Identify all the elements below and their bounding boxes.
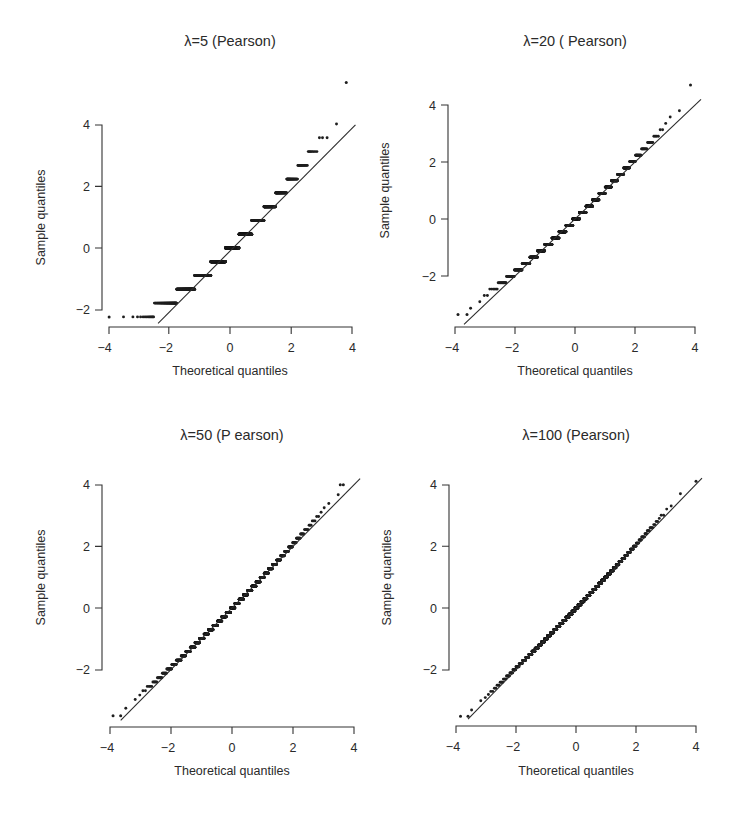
y-axis-label: Sample quantiles	[380, 530, 394, 626]
data-point	[209, 274, 212, 277]
x-tick-label: −2	[159, 341, 173, 355]
panel-title: λ=50 (P earson)	[180, 427, 283, 443]
data-point	[131, 315, 134, 318]
x-tick-label: −2	[506, 740, 520, 754]
data-point	[664, 122, 667, 125]
y-tick-label: 2	[429, 156, 436, 170]
x-axis-label: Theoretical quantiles	[172, 364, 287, 378]
data-point	[224, 260, 227, 263]
data-point	[138, 694, 141, 697]
x-tick-labels: −4 −2 0 2 4	[445, 341, 699, 355]
y-tick-label: −2	[76, 303, 90, 317]
data-point	[144, 689, 147, 692]
y-tick-labels: −2 0 2 4	[76, 478, 90, 677]
data-point	[124, 707, 127, 710]
x-axis	[110, 727, 354, 734]
data-point	[317, 515, 320, 518]
data-point	[597, 198, 600, 201]
outlier-point	[457, 313, 460, 316]
data-point	[543, 249, 546, 252]
x-tick-label: 2	[290, 741, 297, 755]
data-point	[470, 709, 473, 712]
data-point	[670, 505, 673, 508]
data-point	[484, 696, 487, 699]
y-tick-label: −2	[422, 270, 436, 284]
panel-lambda-100: λ=100 (Pearson) −2 0 2 4 −4 −2 0 2 4 The…	[380, 427, 702, 778]
y-tick-label: −2	[423, 663, 437, 677]
x-tick-labels: −4 −2 0 2 4	[446, 740, 700, 754]
x-tick-label: 2	[632, 341, 639, 355]
x-tick-label: −4	[100, 741, 114, 755]
outlier-point	[112, 714, 115, 717]
data-point	[496, 288, 499, 291]
reference-line	[158, 125, 355, 324]
x-tick-label: 0	[572, 341, 579, 355]
y-tick-label: 4	[430, 478, 437, 492]
data-point	[483, 294, 486, 297]
data-point	[661, 128, 664, 131]
points-layer	[108, 81, 348, 318]
y-tick-label: 0	[429, 213, 436, 227]
outlier-point	[466, 313, 469, 316]
x-tick-label: 0	[227, 341, 234, 355]
panel-title: λ=5 (Pearson)	[184, 33, 275, 49]
data-point	[665, 508, 668, 511]
x-tick-labels: −4 −2 0 2 4	[97, 341, 355, 355]
x-tick-label: −4	[445, 341, 459, 355]
data-point	[321, 136, 324, 139]
data-point	[487, 693, 490, 696]
y-axis	[442, 485, 449, 670]
data-point	[152, 315, 155, 318]
panel-title: λ=100 (Pearson)	[522, 427, 630, 443]
y-axis-label: Sample quantiles	[34, 170, 48, 266]
outlier-point	[108, 315, 111, 318]
data-point	[657, 135, 660, 138]
data-point	[134, 698, 137, 701]
y-tick-label: 4	[83, 118, 90, 132]
data-point	[571, 224, 574, 227]
data-point	[323, 506, 326, 509]
data-point	[335, 123, 338, 126]
data-point	[550, 243, 553, 246]
data-point	[315, 150, 318, 153]
x-tick-label: −2	[505, 341, 519, 355]
x-axis-label: Theoretical quantiles	[518, 764, 633, 778]
x-axis	[109, 327, 352, 334]
data-point	[238, 247, 241, 250]
reference-line	[464, 99, 701, 324]
x-tick-label: 4	[349, 341, 356, 355]
data-point	[327, 502, 330, 505]
outlier-point	[459, 715, 462, 718]
x-tick-label: 4	[692, 341, 699, 355]
data-point	[469, 307, 472, 310]
outlier-point	[119, 714, 122, 717]
data-point	[314, 519, 317, 522]
data-point	[678, 109, 681, 112]
data-point	[250, 233, 253, 236]
data-point	[479, 699, 482, 702]
x-tick-label: 4	[693, 740, 700, 754]
data-point	[136, 315, 139, 318]
outlier-point	[467, 715, 470, 718]
data-point	[658, 517, 661, 520]
data-point	[326, 136, 329, 139]
data-point	[225, 615, 228, 618]
data-point	[141, 689, 144, 692]
data-point	[478, 300, 481, 303]
x-tick-label: 2	[288, 341, 295, 355]
data-point	[310, 524, 313, 527]
y-axis	[95, 125, 102, 310]
points-layer	[112, 483, 345, 717]
y-axis	[95, 485, 102, 670]
data-point	[306, 164, 309, 167]
data-point	[262, 219, 265, 222]
y-tick-label: 2	[83, 180, 90, 194]
x-tick-label: 2	[633, 740, 640, 754]
y-axis-label: Sample quantiles	[34, 530, 48, 626]
y-tick-labels: −2 0 2 4	[76, 118, 90, 317]
y-tick-label: 4	[429, 99, 436, 113]
panel-lambda-20: λ=20 ( Pearson) −2 0 2 4 −4 −2 0 2 4 The…	[378, 33, 701, 378]
panel-title: λ=20 ( Pearson)	[523, 33, 627, 49]
data-point	[604, 192, 607, 195]
data-point	[585, 211, 588, 214]
